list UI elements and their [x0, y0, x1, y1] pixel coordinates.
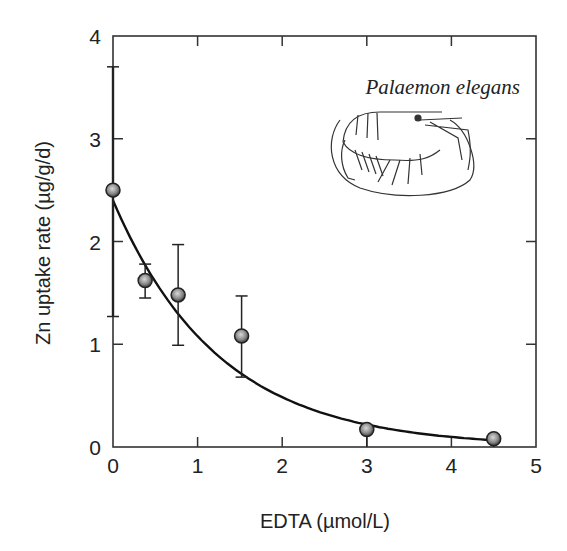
x-tick-label: 2: [276, 454, 288, 477]
x-tick-labels: 012345: [107, 454, 542, 477]
x-tick-label: 3: [361, 454, 373, 477]
x-tick-label: 5: [530, 454, 542, 477]
y-tick-label: 1: [89, 333, 101, 356]
x-tick-label: 0: [107, 454, 119, 477]
x-tick-label: 1: [192, 454, 204, 477]
data-point: [138, 274, 152, 288]
fit-curve-line: [113, 200, 494, 440]
y-tick-labels: 01234: [89, 25, 101, 459]
x-axis-title: EDTA (µmol/L): [260, 510, 390, 532]
data-point: [360, 423, 374, 437]
x-tick-label: 4: [446, 454, 458, 477]
shrimp-illustration-icon: [331, 112, 473, 196]
chart: 012345 01234 EDTA (µmol/L) Zn uptake rat…: [0, 0, 567, 551]
y-tick-label: 3: [89, 128, 101, 151]
data-point: [106, 183, 120, 197]
fit-curve: [113, 200, 494, 440]
y-tick-label: 0: [89, 436, 101, 459]
species-label: Palaemon elegans: [364, 75, 520, 99]
y-axis-title: Zn uptake rate (µg/g/d): [32, 141, 54, 345]
y-tick-label: 4: [89, 25, 101, 48]
data-point: [235, 329, 249, 343]
error-bars: [107, 67, 494, 447]
data-point: [487, 432, 501, 446]
data-point: [171, 288, 185, 302]
y-tick-label: 2: [89, 231, 101, 254]
